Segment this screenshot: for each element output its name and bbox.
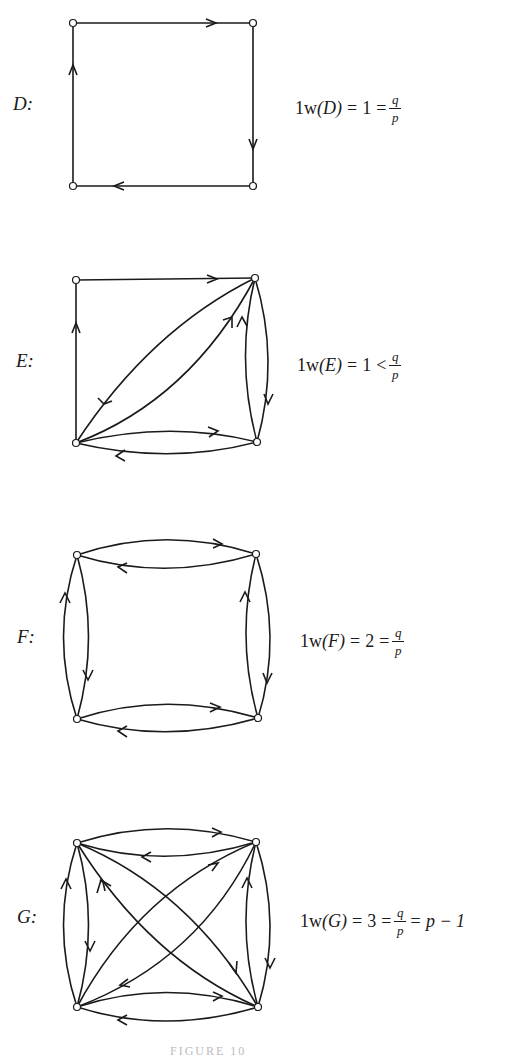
formula-e: 1w (E) = 1 < q p — [297, 350, 404, 381]
figure-caption: FIGURE 10 — [170, 1044, 246, 1059]
digraph-f — [0, 520, 510, 770]
formula-eq: = — [347, 98, 357, 119]
formula-f: 1w (F) = 2 = q p — [300, 626, 407, 657]
panel-e: E: 1w — [0, 250, 510, 500]
formula-lhs: 1w — [300, 631, 322, 652]
formula-eq: = — [350, 631, 360, 652]
panel-g: G: — [0, 780, 510, 1053]
formula-value: 1 — [362, 355, 371, 376]
formula-relation: = — [381, 911, 391, 932]
formula-relation: = — [376, 98, 386, 119]
formula-value: 2 — [365, 631, 374, 652]
formula-tail: = p − 1 — [409, 911, 465, 932]
digraph-d — [0, 0, 510, 240]
formula-g: 1w (G) = 3 = q p = p − 1 — [300, 906, 465, 937]
fraction-q-over-p: q p — [389, 350, 401, 381]
formula-eq: = — [347, 355, 357, 376]
panel-f: F: 1w (F) — [0, 520, 510, 770]
formula-arg: (E) — [319, 355, 342, 376]
formula-eq: = — [352, 911, 362, 932]
formula-value: 3 — [367, 911, 376, 932]
formula-arg: (F) — [322, 631, 345, 652]
formula-relation: = — [379, 631, 389, 652]
fraction-q-over-p: q p — [394, 906, 406, 937]
formula-lhs: 1w — [295, 98, 317, 119]
digraph-e — [0, 250, 510, 500]
formula-d: 1w (D) = 1 = q p — [295, 93, 404, 124]
formula-arg: (D) — [317, 98, 342, 119]
fraction-q-over-p: q p — [389, 93, 401, 124]
formula-value: 1 — [362, 98, 371, 119]
formula-relation: < — [376, 355, 386, 376]
formula-arg: (G) — [322, 911, 347, 932]
formula-lhs: 1w — [300, 911, 322, 932]
panel-d: D: 1w (D) = 1 = q p — [0, 0, 510, 240]
fraction-q-over-p: q p — [392, 626, 404, 657]
formula-lhs: 1w — [297, 355, 319, 376]
